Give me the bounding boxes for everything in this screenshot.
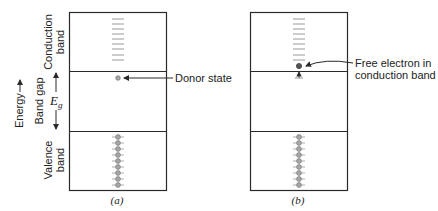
- panel-b: Free electron in conduction band (b): [250, 13, 436, 208]
- eg-symbol: E: [49, 93, 58, 108]
- conduction-label-line1: Conduction: [42, 14, 54, 70]
- panel-a-caption: (a): [111, 194, 124, 207]
- conduction-levels: [112, 19, 124, 60]
- free-electron-label-line1: Free electron in: [355, 57, 431, 69]
- valence-band-label: Valence band: [42, 141, 66, 180]
- conduction-levels: [293, 19, 305, 60]
- valence-label-line1: Valence: [42, 141, 54, 180]
- energy-axis: Energy: [13, 80, 25, 128]
- valence-label-line2: band: [54, 148, 66, 172]
- eg-subscript: g: [58, 100, 63, 110]
- eg-arrow: E g: [49, 73, 63, 129]
- donor-state-label: Donor state: [175, 72, 232, 84]
- free-electron-label-line2: conduction band: [355, 69, 436, 81]
- panel-a: Donor state (a): [69, 13, 232, 208]
- conduction-band-label: Conduction band: [42, 14, 66, 70]
- energy-label: Energy: [13, 93, 25, 128]
- donor-state-electron: [116, 76, 121, 81]
- conduction-label-line2: band: [54, 30, 66, 54]
- free-electron: [296, 63, 301, 68]
- band-gap-label: Band gap: [33, 77, 45, 124]
- free-electron-pointer-arrow-icon: [306, 61, 353, 66]
- panel-b-caption: (b): [292, 194, 305, 207]
- valence-electrons: [293, 135, 305, 188]
- ionized-donor-icon: [295, 72, 303, 78]
- band-diagram: Energy Band gap E g Conduction band Vale…: [0, 0, 438, 211]
- valence-electrons: [112, 135, 124, 188]
